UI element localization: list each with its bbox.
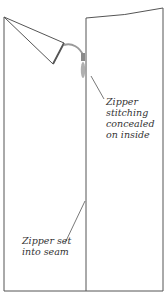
zipper-pull-icon [81, 62, 85, 78]
stitching-label-line: stitching [106, 107, 155, 118]
zipper-slider-icon [81, 53, 85, 61]
stitching-label: Zipper stitching concealed on inside [106, 96, 155, 140]
seam-label-line: into seam [22, 246, 71, 257]
right-panel [86, 8, 163, 291]
zipper [64, 44, 85, 78]
stitching-leader-line [91, 76, 104, 99]
stitching-label-line: Zipper [106, 96, 155, 107]
stitching-label-line: on inside [106, 129, 155, 140]
seam-label-line: Zipper set [22, 235, 71, 246]
stitching-label-line: concealed [106, 118, 155, 129]
folded-corner-flap [4, 17, 64, 64]
seam-label: Zipper set into seam [22, 235, 71, 257]
